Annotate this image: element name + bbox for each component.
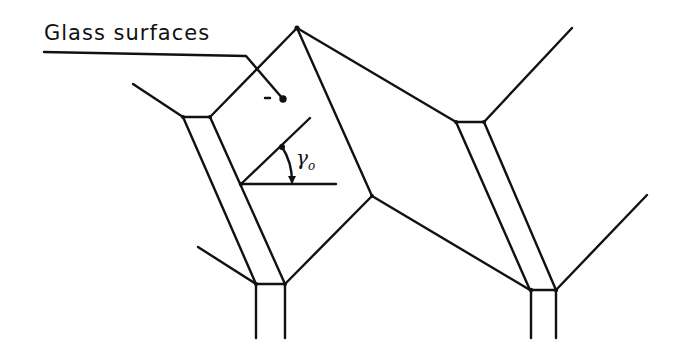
node-center (370, 194, 374, 198)
wall-peak-to-right (297, 28, 456, 122)
channel-left-outer (183, 117, 256, 284)
wall-left-to-peak (210, 28, 297, 117)
node-left-lower-b (283, 282, 287, 286)
wall-center-to-right (372, 196, 530, 290)
leader-dot (281, 97, 286, 102)
node-peak (294, 25, 299, 30)
channel-left-inner (210, 117, 285, 284)
node-right-lower-a (529, 288, 533, 292)
diagram-canvas: Glass surfaces γo (0, 0, 684, 356)
glass-surfaces-label: Glass surfaces (44, 21, 210, 45)
node-right-upper-b (482, 120, 486, 124)
node-right-lower-b (554, 288, 558, 292)
wall-left-upper-outer (133, 84, 183, 117)
node-left-upper-b (208, 115, 212, 119)
wall-right-lower (556, 195, 647, 290)
node-left-lower-a (254, 282, 258, 286)
node-right-upper-a (454, 120, 458, 124)
glass-cell-drawing (0, 0, 684, 356)
arc-start-dot (279, 144, 285, 150)
leader-line (44, 52, 283, 99)
angle-gamma-label: γo (296, 146, 315, 173)
angle-vertex (239, 182, 243, 186)
angle-subscript: o (308, 159, 315, 173)
wall-right-upper (484, 28, 572, 122)
wall-to-center (285, 196, 372, 284)
angle-symbol: γ (296, 146, 308, 170)
node-left-upper-a (181, 115, 185, 119)
